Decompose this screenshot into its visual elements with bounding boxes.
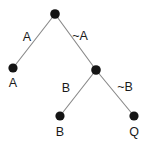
edge-label-middle-to-leaf-q: ~B: [117, 80, 133, 94]
decision-tree-diagram: A ~A B ~B A B Q: [0, 0, 147, 145]
node-label-leaf-q: Q: [129, 125, 139, 139]
edge-label-root-to-leaf-a: A: [23, 30, 32, 44]
edge-label-middle-to-leaf-b: B: [62, 81, 70, 95]
nodes-group: [8, 9, 138, 120]
tree-canvas: A ~A B ~B A B Q: [0, 0, 147, 145]
node-root: [50, 9, 60, 19]
edge-label-root-to-middle: ~A: [72, 29, 88, 43]
edge-root-to-leaf-a: [13, 14, 55, 68]
edge-labels-group: A ~A B ~B: [23, 29, 133, 95]
node-label-leaf-b: B: [56, 125, 64, 139]
node-leaf-q: [129, 111, 138, 120]
node-label-leaf-a: A: [9, 76, 18, 90]
node-leaf-a: [8, 63, 17, 72]
node-middle: [91, 65, 101, 75]
node-leaf-b: [55, 111, 64, 120]
